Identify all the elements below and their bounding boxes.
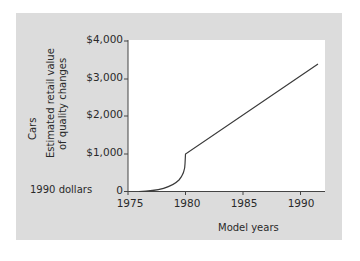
y-tick-label: $4,000 [86, 33, 123, 45]
y-axis-label-line-3: of quality changes [57, 58, 68, 150]
y-tick-label: 0 [116, 184, 123, 196]
x-axis-label: Model years [218, 222, 279, 233]
y-tick-label: $1,000 [86, 146, 123, 158]
y-tick-marks [124, 41, 128, 192]
x-tick-label: 1980 [167, 197, 207, 209]
data-line [139, 64, 318, 192]
x-tick-label: 1990 [281, 197, 321, 209]
y-axis-label-line-2: Estimated retail value [45, 48, 56, 158]
x-tick-label: 1975 [110, 197, 150, 209]
y-tick-label: $3,000 [86, 71, 123, 83]
y-axis-label-line-1: Cars [27, 118, 38, 140]
x-tick-label: 1985 [224, 197, 264, 209]
y-units-label: 1990 dollars [30, 184, 92, 195]
y-tick-label: $2,000 [86, 108, 123, 120]
